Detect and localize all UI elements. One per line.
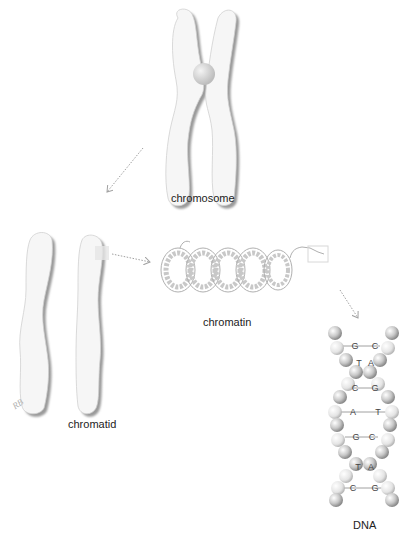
dna-base: C bbox=[369, 432, 376, 442]
zoom-region-box bbox=[95, 246, 109, 260]
dna-base: C bbox=[372, 341, 379, 351]
label-chromatid: chromatid bbox=[68, 418, 116, 430]
diagram-canvas: G C T A C G A T G C T A C G RB bbox=[0, 0, 412, 541]
dna-helix-illustration: G C T A C G A T G C T A C G bbox=[328, 326, 399, 507]
label-dna: DNA bbox=[353, 519, 376, 531]
dna-base: A bbox=[350, 407, 356, 417]
chromatin-illustration bbox=[161, 241, 328, 292]
dna-base: G bbox=[352, 432, 359, 442]
dna-base: C bbox=[352, 383, 359, 393]
dna-base: G bbox=[351, 341, 358, 351]
dna-base: A bbox=[368, 462, 374, 472]
chromosome-illustration bbox=[166, 9, 239, 209]
arrow-chromosome-to-chromatid bbox=[107, 148, 143, 192]
dna-base: G bbox=[371, 483, 378, 493]
label-chromosome: chromosome bbox=[171, 192, 235, 204]
chromatid-illustration bbox=[20, 233, 109, 417]
arrow-chromatid-to-chromatin bbox=[112, 254, 150, 262]
dna-base: G bbox=[371, 383, 378, 393]
dna-base: C bbox=[350, 483, 357, 493]
dna-base: T bbox=[356, 358, 362, 368]
label-chromatin: chromatin bbox=[203, 316, 251, 328]
dna-base: A bbox=[368, 358, 374, 368]
dna-base: T bbox=[375, 407, 381, 417]
centromere bbox=[193, 63, 215, 85]
dna-base: T bbox=[355, 462, 361, 472]
arrow-chromatin-to-dna bbox=[340, 290, 358, 318]
